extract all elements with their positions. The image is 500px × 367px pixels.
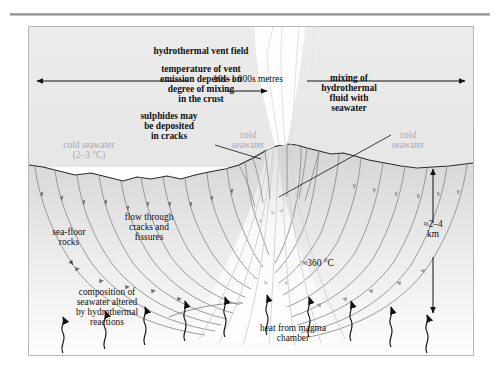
- horizontal-scale-label: 10s–1 000s metres: [185, 74, 311, 84]
- sea-floor-rocks-label: sea-floor rocks: [31, 227, 107, 247]
- diagram-frame: hydrothermal vent field temperature of v…: [28, 26, 474, 356]
- cold-seawater-left-label: cold seawater (2–3 °C): [33, 140, 145, 160]
- flow-through-label: flow through cracks and fissures: [103, 212, 195, 242]
- cold-seawater-right-label: cold seawater: [377, 130, 439, 150]
- sulphides-note-label: sulphides may be deposited in cracks: [123, 111, 215, 141]
- top-rule: [10, 13, 490, 16]
- mixing-note-label: mixing of hydrothermal fluid with seawat…: [301, 73, 397, 114]
- figure-root: hydrothermal vent field temperature of v…: [0, 0, 500, 367]
- deep-temperature-label: ≈360 °C: [287, 258, 349, 268]
- cold-seawater-mid-label: cold seawater: [217, 130, 279, 150]
- depth-scale-label: ≈2–4 km: [409, 219, 457, 239]
- composition-note-label: composition of seawater altered by hydro…: [47, 287, 167, 328]
- heat-source-label: heat from magma chamber: [229, 323, 357, 343]
- vent-field-label: hydrothermal vent field: [111, 46, 291, 56]
- temperature-note-label: temperature of vent emission depends on …: [113, 64, 289, 105]
